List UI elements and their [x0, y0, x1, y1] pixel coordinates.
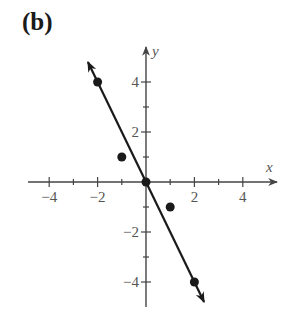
y-tick-label: 2: [132, 124, 140, 140]
y-tick-label: −4: [123, 274, 139, 290]
x-tick-label: −4: [41, 189, 57, 205]
x-tick-label: −2: [90, 189, 106, 205]
x-tick-label: 4: [239, 189, 247, 205]
y-tick-label: −2: [123, 224, 139, 240]
x-tick-label: 2: [191, 189, 199, 205]
data-point: [166, 203, 175, 212]
data-point: [93, 78, 102, 87]
y-tick-label: 4: [132, 74, 140, 90]
x-axis-label: x: [265, 159, 273, 175]
data-point: [142, 178, 151, 187]
data-point: [190, 278, 199, 287]
scatter-chart: xy −4−22442−2−4: [0, 0, 283, 315]
axes: xy: [28, 43, 277, 307]
data-point: [117, 153, 126, 162]
y-axis-label: y: [150, 43, 159, 59]
